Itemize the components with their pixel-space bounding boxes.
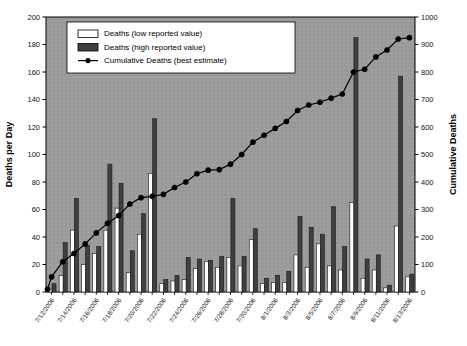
left-axis-tick-label: 40 [32, 233, 40, 242]
cumulative-line-marker [261, 133, 266, 138]
bar-low-reported [372, 270, 376, 292]
bar-high-reported [209, 260, 213, 292]
left-axis-tick-label: 0 [36, 288, 40, 297]
bar-low-reported [272, 282, 276, 292]
left-axis-tick-label: 140 [27, 95, 40, 104]
bar-high-reported [365, 259, 369, 292]
bar-high-reported [97, 247, 101, 292]
bar-low-reported [137, 234, 141, 292]
cumulative-line-marker [373, 54, 378, 59]
right-axis-tick-label: 600 [421, 123, 434, 132]
bar-low-reported [193, 269, 197, 292]
bar-high-reported [354, 38, 358, 292]
left-axis-tick-label: 60 [32, 205, 40, 214]
bar-high-reported [186, 258, 190, 292]
left-axis-tick-label: 80 [32, 178, 40, 187]
bar-high-reported [197, 259, 201, 292]
bar-high-reported [276, 276, 280, 293]
left-axis-tick-label: 180 [27, 40, 40, 49]
chart-legend: Deaths (low reported value)Deaths (high … [67, 22, 295, 73]
left-axis-tick-label: 120 [27, 123, 40, 132]
bar-low-reported [104, 230, 108, 292]
cumulative-line-marker [206, 168, 211, 173]
bar-high-reported [287, 271, 291, 292]
bar-high-reported [52, 284, 56, 292]
bar-high-reported [399, 76, 403, 292]
bar-low-reported [59, 276, 63, 293]
cumulative-line-marker [273, 126, 278, 131]
bar-high-reported [231, 199, 235, 293]
cumulative-line-marker [49, 274, 54, 279]
right-axis-tick-label: 0 [421, 288, 425, 297]
cumulative-line-marker [83, 241, 88, 246]
bar-high-reported [175, 276, 179, 293]
legend-swatch-high [78, 44, 98, 52]
bar-high-reported [343, 247, 347, 292]
bar-low-reported [149, 174, 153, 292]
bar-low-reported [339, 270, 343, 292]
bar-low-reported [227, 258, 231, 292]
bar-low-reported [70, 230, 74, 292]
bar-low-reported [350, 203, 354, 292]
legend-label-high: Deaths (high reported value) [104, 43, 206, 52]
cumulative-line-marker [384, 47, 389, 52]
chart-container: 020406080100120140160180200Deaths per Da… [0, 0, 467, 346]
bar-high-reported [332, 207, 336, 292]
bar-low-reported [205, 262, 209, 292]
left-axis-title: Deaths per Day [4, 122, 14, 188]
cumulative-line-marker [317, 100, 322, 105]
right-axis-tick-label: 900 [421, 40, 434, 49]
right-axis-tick-label: 800 [421, 68, 434, 77]
bar-high-reported [153, 119, 157, 292]
cumulative-line-marker [71, 251, 76, 256]
right-axis-tick-label: 100 [421, 260, 434, 269]
cumulative-line-marker [116, 213, 121, 218]
bar-high-reported [220, 256, 224, 292]
cumulative-line-marker [295, 108, 300, 113]
bar-low-reported [305, 267, 309, 292]
bar-high-reported [141, 214, 145, 292]
cumulative-line-marker [217, 167, 222, 172]
cumulative-line-marker [172, 185, 177, 190]
left-axis-tick-label: 200 [27, 13, 40, 22]
cumulative-line-marker [250, 140, 255, 145]
cumulative-line-marker [127, 201, 132, 206]
bar-low-reported [249, 240, 253, 292]
cumulative-line-marker [340, 91, 345, 96]
bar-low-reported [171, 281, 175, 292]
right-axis-tick-label: 500 [421, 150, 434, 159]
cumulative-line-marker [329, 96, 334, 101]
bar-low-reported [93, 254, 97, 293]
bar-high-reported [86, 245, 90, 292]
right-axis-tick-label: 400 [421, 178, 434, 187]
right-axis-tick-label: 300 [421, 205, 434, 214]
legend-swatch-low [78, 30, 98, 38]
bar-low-reported [238, 266, 242, 292]
bar-low-reported [160, 284, 164, 292]
bar-high-reported [309, 227, 313, 292]
left-axis-tick-label: 160 [27, 68, 40, 77]
cumulative-line-marker [239, 152, 244, 157]
left-axis-tick-label: 100 [27, 150, 40, 159]
cumulative-line-marker [306, 102, 311, 107]
bar-low-reported [283, 282, 287, 292]
bar-high-reported [253, 229, 257, 292]
bar-high-reported [242, 256, 246, 292]
bar-low-reported [406, 277, 410, 292]
cumulative-line-marker [183, 179, 188, 184]
bar-low-reported [361, 278, 365, 292]
bar-high-reported [320, 234, 324, 292]
bar-low-reported [294, 255, 298, 292]
right-axis-title: Cumulative Deaths [448, 114, 458, 195]
bar-low-reported [316, 244, 320, 292]
bar-high-reported [119, 183, 123, 292]
cumulative-line-marker [407, 35, 412, 40]
bar-low-reported [182, 280, 186, 292]
cumulative-line-marker [194, 171, 199, 176]
bar-low-reported [260, 284, 264, 292]
bar-high-reported [387, 285, 391, 292]
cumulative-line-marker [351, 69, 356, 74]
legend-marker-cumulative [85, 58, 90, 63]
right-axis-tick-label: 700 [421, 95, 434, 104]
bar-high-reported [298, 216, 302, 292]
